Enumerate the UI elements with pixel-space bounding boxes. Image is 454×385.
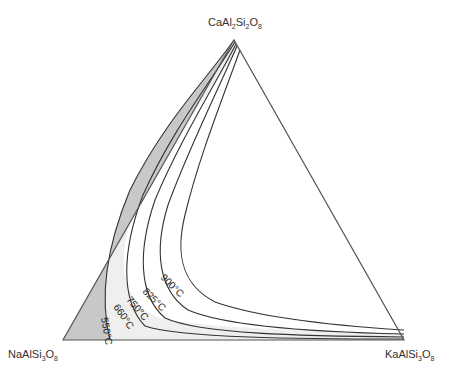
ternary-diagram: 550°C 660°C 750°C 825°C 900°C [0, 0, 454, 385]
interior-region [155, 50, 404, 330]
